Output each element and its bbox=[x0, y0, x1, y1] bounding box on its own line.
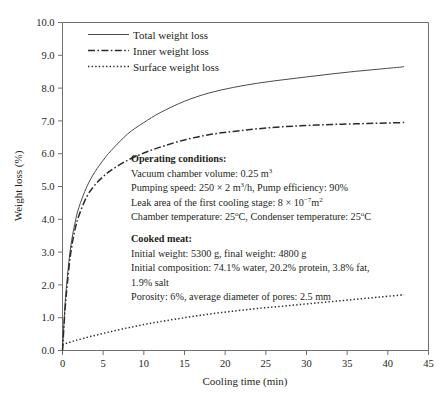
annotation-vacuum-chamber-volume: Vacuum chamber volume: 0.25 m3 bbox=[131, 167, 371, 182]
annotation-op2-text-b: /h, Pump efficiency: 90% bbox=[244, 182, 348, 193]
x-tick-label: 40 bbox=[383, 358, 394, 369]
y-tick-label: 9.0 bbox=[41, 50, 54, 61]
chart-legend: Total weight loss Inner weight loss Surf… bbox=[88, 29, 219, 73]
chart-figure: 0.01.02.03.04.05.06.07.08.09.010.0 05101… bbox=[0, 0, 441, 402]
x-axis-title: Cooling time (min) bbox=[203, 375, 288, 388]
y-tick-label: 6.0 bbox=[41, 148, 54, 159]
annotation-pumping-speed: Pumping speed: 250 × 2 m3/h, Pump effici… bbox=[131, 181, 371, 196]
annotation-op1-text: Vacuum chamber volume: 0.25 m bbox=[131, 168, 269, 179]
annotation-meat-porosity: Porosity: 6%, average diameter of pores:… bbox=[131, 290, 389, 305]
annotation-operating-heading: Operating conditions: bbox=[131, 152, 371, 167]
x-tick-label: 45 bbox=[423, 358, 434, 369]
x-tick-label: 20 bbox=[220, 358, 231, 369]
x-axis-ticks: 051015202530354045 bbox=[60, 351, 434, 369]
x-tick-label: 25 bbox=[261, 358, 272, 369]
annotation-op4-text-c: C bbox=[364, 211, 371, 222]
y-tick-label: 7.0 bbox=[41, 116, 54, 127]
annotation-cooked-meat: Cooked meat: Initial weight: 5300 g, fin… bbox=[131, 232, 389, 305]
y-tick-label: 2.0 bbox=[41, 280, 54, 291]
annotation-op2-text: Pumping speed: 250 × 2 m bbox=[131, 182, 241, 193]
annotation-temperatures: Chamber temperature: 25oC, Condenser tem… bbox=[131, 210, 371, 225]
annotation-meat-composition: Initial composition: 74.1% water, 20.2% … bbox=[131, 261, 389, 290]
y-tick-label: 1.0 bbox=[41, 312, 54, 323]
annotation-op4-text: Chamber temperature: 25 bbox=[131, 211, 235, 222]
y-tick-label: 8.0 bbox=[41, 83, 54, 94]
y-axis-title: Weight loss (%) bbox=[12, 150, 25, 221]
annotation-operating-conditions: Operating conditions: Vacuum chamber vol… bbox=[131, 152, 371, 225]
x-tick-label: 35 bbox=[342, 358, 353, 369]
annotation-op4-text-b: C, Condenser temperature: 25 bbox=[239, 211, 361, 222]
y-tick-label: 0.0 bbox=[41, 345, 54, 356]
x-tick-label: 10 bbox=[139, 358, 150, 369]
x-tick-label: 0 bbox=[60, 358, 65, 369]
annotation-op3-sup2: 2 bbox=[319, 195, 322, 202]
legend-label-total: Total weight loss bbox=[133, 29, 208, 41]
annotation-op1-sup: 3 bbox=[269, 166, 272, 173]
y-tick-label: 5.0 bbox=[41, 181, 54, 192]
legend-label-surface: Surface weight loss bbox=[133, 61, 219, 73]
y-tick-label: 3.0 bbox=[41, 247, 54, 258]
x-tick-label: 30 bbox=[301, 358, 312, 369]
y-tick-label: 4.0 bbox=[41, 214, 54, 225]
annotation-meat-heading: Cooked meat: bbox=[131, 232, 389, 247]
legend-label-inner: Inner weight loss bbox=[133, 45, 209, 57]
annotation-leak-area: Leak area of the first cooling stage: 8 … bbox=[131, 196, 371, 211]
y-axis-ticks: 0.01.02.03.04.05.06.07.08.09.010.0 bbox=[36, 17, 62, 356]
annotation-op3-text: Leak area of the first cooling stage: 8 … bbox=[131, 197, 304, 208]
x-tick-label: 15 bbox=[179, 358, 190, 369]
x-tick-label: 5 bbox=[101, 358, 106, 369]
annotation-meat-weight: Initial weight: 5300 g, final weight: 48… bbox=[131, 247, 389, 262]
y-tick-label: 10.0 bbox=[36, 17, 54, 28]
